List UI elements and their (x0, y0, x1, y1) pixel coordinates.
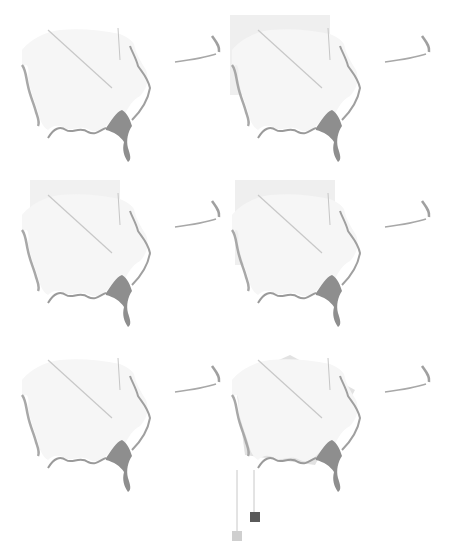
legend-swatch-light (232, 531, 242, 541)
map-panel-r3c1 (0, 330, 229, 495)
legend (230, 470, 310, 551)
map-panel-r1c1 (0, 0, 229, 165)
map-panel-r1c2 (210, 0, 439, 165)
map-panel-r2c1 (0, 165, 229, 330)
map-panel-r2c2 (210, 165, 439, 330)
legend-swatch-dark (250, 512, 260, 522)
